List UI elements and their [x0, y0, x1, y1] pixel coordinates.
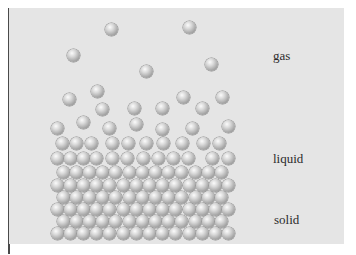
liquid-particle	[96, 103, 109, 116]
liquid-particle	[213, 137, 226, 150]
solid-particle	[123, 166, 136, 179]
liquid-particle	[222, 152, 235, 165]
solid-particle	[183, 227, 196, 240]
liquid-particle	[206, 152, 219, 165]
liquid-particle	[152, 152, 165, 165]
solid-particle	[196, 227, 209, 240]
liquid-particle	[106, 137, 119, 150]
gas-particle	[105, 23, 118, 36]
solid-particle	[149, 215, 162, 228]
solid-particle	[103, 179, 116, 192]
solid-particle	[156, 227, 169, 240]
solid-particle	[169, 203, 182, 216]
solid-particle	[143, 227, 156, 240]
solid-particle	[169, 179, 182, 192]
solid-particle	[57, 215, 70, 228]
solid-particle	[83, 191, 96, 204]
liquid-particle	[167, 152, 180, 165]
solid-particle	[70, 166, 83, 179]
solid-particle	[183, 179, 196, 192]
liquid-particle	[106, 152, 119, 165]
solid-particle	[51, 179, 64, 192]
solid-particle	[90, 179, 103, 192]
liquid-particle	[197, 137, 210, 150]
liquid-particle	[176, 137, 189, 150]
liquid-particle	[140, 137, 153, 150]
liquid-particle	[186, 122, 199, 135]
liquid-particle	[156, 102, 169, 115]
liquid-particle	[77, 116, 90, 129]
solid-particle	[189, 215, 202, 228]
solid-particle	[162, 166, 175, 179]
liquid-particle	[177, 91, 190, 104]
solid-particle	[222, 227, 235, 240]
solid-particle	[83, 215, 96, 228]
solid-particle	[51, 203, 64, 216]
solid-particle	[189, 166, 202, 179]
liquid-particle	[103, 122, 116, 135]
liquid-particle	[51, 152, 64, 165]
solid-particle	[57, 191, 70, 204]
liquid-particle	[157, 137, 170, 150]
solid-particle	[136, 166, 149, 179]
liquid-particle	[196, 102, 209, 115]
liquid-particle	[77, 152, 90, 165]
solid-particle	[222, 179, 235, 192]
solid-particle	[183, 203, 196, 216]
liquid-particle	[121, 152, 134, 165]
solid-particle	[70, 191, 83, 204]
solid-particle	[209, 179, 222, 192]
solid-particle	[175, 215, 188, 228]
solid-particle	[162, 191, 175, 204]
solid-particle	[189, 191, 202, 204]
solid-particle	[209, 203, 222, 216]
solid-particle	[77, 179, 90, 192]
liquid-particle	[51, 122, 64, 135]
solid-particle	[196, 203, 209, 216]
liquid-particle	[128, 102, 141, 115]
liquid-particle	[63, 93, 76, 106]
gas-particle	[183, 21, 196, 34]
solid-particle	[123, 191, 136, 204]
gas-particle	[67, 49, 80, 62]
solid-particle	[64, 227, 77, 240]
label-liquid: liquid	[273, 151, 303, 167]
liquid-particle	[64, 152, 77, 165]
solid-particle	[51, 227, 64, 240]
liquid-particle	[130, 118, 143, 131]
solid-particle	[143, 203, 156, 216]
solid-particle	[215, 166, 228, 179]
solid-particle	[156, 203, 169, 216]
solid-particle	[70, 215, 83, 228]
solid-particle	[215, 191, 228, 204]
solid-particle	[202, 191, 215, 204]
liquid-particle	[182, 152, 195, 165]
liquid-particle	[85, 137, 98, 150]
solid-particle	[117, 179, 130, 192]
solid-particle	[77, 203, 90, 216]
solid-particle	[149, 166, 162, 179]
solid-particle	[103, 227, 116, 240]
solid-particle	[96, 215, 109, 228]
solid-particle	[215, 215, 228, 228]
liquid-particle	[137, 152, 150, 165]
solid-particle	[130, 227, 143, 240]
solid-particle	[130, 203, 143, 216]
liquid-particle	[56, 137, 69, 150]
liquid-particle	[122, 137, 135, 150]
solid-particle	[136, 191, 149, 204]
liquid-particle	[156, 123, 169, 136]
solid-particle	[136, 215, 149, 228]
liquid-particle	[222, 120, 235, 133]
solid-particle	[196, 179, 209, 192]
solid-particle	[175, 191, 188, 204]
solid-particle	[162, 215, 175, 228]
gas-particle	[205, 58, 218, 71]
solid-particle	[169, 227, 182, 240]
solid-particle	[202, 215, 215, 228]
solid-particle	[96, 191, 109, 204]
solid-particle	[130, 179, 143, 192]
liquid-particle	[70, 137, 83, 150]
solid-particle	[143, 179, 156, 192]
solid-particle	[149, 191, 162, 204]
